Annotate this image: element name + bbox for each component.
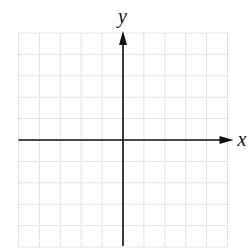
x-axis-label: x <box>237 128 247 150</box>
axes <box>19 31 234 246</box>
coordinate-plane: x y <box>0 0 249 252</box>
y-axis-label: y <box>116 5 127 28</box>
x-axis-arrow-icon <box>220 136 234 144</box>
y-axis-arrow-icon <box>119 31 127 45</box>
